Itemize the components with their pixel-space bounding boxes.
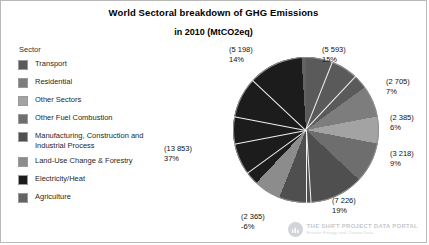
legend-item-other-sectors[interactable]: Other Sectors [18,95,193,106]
pie-label-other-sectors: (2 385) 6% [390,113,414,132]
pie-label-residential: (2 705) 7% [386,77,410,96]
chart-title: World Sectoral breakdown of GHG Emission… [1,7,426,18]
legend-swatch-electricity-heat [18,175,28,185]
chart-subtitle: in 2010 (MtCO2eq) [1,27,426,37]
legend-swatch-other-sectors [18,96,28,106]
legend-swatch-land-use-change [18,157,28,167]
legend-label-land-use-change: Land-Use Change & Forestry [35,156,133,166]
legend-title: Sector [19,45,193,54]
legend-label-residential: Residential [35,77,72,87]
pie-label-agriculture: (5 198) 14% [229,45,253,64]
legend-swatch-agriculture [18,193,28,203]
legend-label-other-fuel-combustion: Other Fuel Combustion [35,113,113,123]
pie-chart [233,57,379,203]
legend-item-other-fuel-combustion[interactable]: Other Fuel Combustion [18,113,193,124]
legend-item-transport[interactable]: Transport [18,59,193,70]
legend-swatch-transport [18,60,28,70]
legend-swatch-other-fuel-combustion [18,114,28,124]
chart-frame: World Sectoral breakdown of GHG Emission… [0,0,427,243]
legend-label-transport: Transport [35,59,67,69]
pie-label-transport: (5 593) 15% [322,45,346,64]
watermark-subtitle: Browse Energy and Climate Data [307,230,418,236]
legend: Sector Transport Residential Other Secto… [18,45,193,210]
pie-label-electricity: (13 853) 37% [164,144,192,163]
pie-label-other-fuel: (3 218) 9% [390,149,414,168]
legend-label-manufacturing: Manufacturing, Construction and Industri… [35,131,143,150]
pie-label-manufacturing: (7 226) 19% [332,196,356,215]
legend-swatch-manufacturing [18,132,28,142]
legend-swatch-residential [18,78,28,88]
legend-label-agriculture: Agriculture [35,192,71,202]
watermark-title: THE SHIFT PROJECT DATA PORTAL [307,223,418,230]
legend-label-electricity-heat: Electricity/Heat [35,174,85,184]
legend-item-residential[interactable]: Residential [18,77,193,88]
legend-item-agriculture[interactable]: Agriculture [18,192,193,203]
watermark: THE SHIFT PROJECT DATA PORTAL Browse Ene… [288,222,418,237]
shift-project-logo-icon [288,222,303,237]
legend-item-electricity-heat[interactable]: Electricity/Heat [18,174,193,185]
pie-label-land-use: (2 365) -6% [241,212,265,231]
legend-label-other-sectors: Other Sectors [35,95,81,105]
